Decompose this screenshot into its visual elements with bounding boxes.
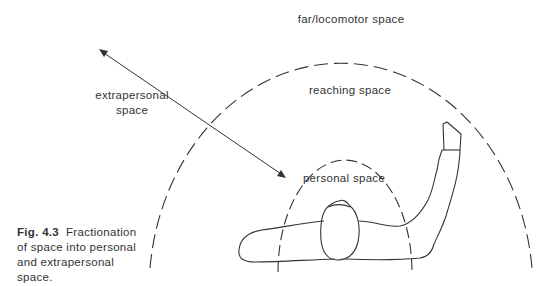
figure-number: Fig. 4.3 bbox=[17, 226, 59, 238]
person-figure-icon bbox=[239, 122, 461, 262]
extrapersonal-label-line2: space bbox=[82, 103, 182, 118]
far-locomotor-space-label: far/locomotor space bbox=[296, 12, 406, 27]
personal-space-label: personal space bbox=[296, 171, 392, 186]
figure-caption: Fig. 4.3 Fractionation of space into per… bbox=[17, 225, 137, 285]
extrapersonal-label-line1: extrapersonal bbox=[82, 88, 182, 103]
extrapersonal-space-label: extrapersonal space bbox=[82, 88, 182, 118]
reaching-space-label: reaching space bbox=[300, 83, 400, 98]
